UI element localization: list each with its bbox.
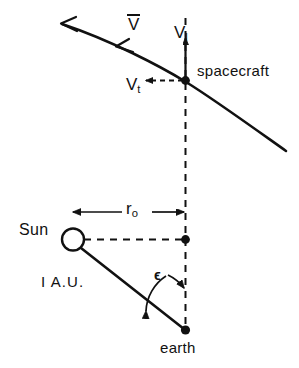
earth-point-marker <box>181 325 190 334</box>
trajectory-tip-arrowhead <box>61 17 77 31</box>
trajectory-curve <box>62 24 286 151</box>
astronomical-unit-label: I A.U. <box>41 274 84 289</box>
radial-distance-base: r <box>126 199 132 218</box>
diagram-figure: V Vl Vt spacecraft ro Sun I A.U. ϵ earth <box>0 0 299 368</box>
sun-label: Sun <box>19 222 48 238</box>
longitudinal-velocity-label: Vl <box>174 24 188 41</box>
radial-distance-label: ro <box>126 200 138 217</box>
longitudinal-velocity-base: V <box>174 23 185 42</box>
v-bar-arrowhead <box>116 39 133 52</box>
radial-distance-subscript: o <box>132 207 138 219</box>
one-au-line <box>81 248 184 329</box>
transverse-velocity-base: V <box>126 75 137 94</box>
transverse-velocity-label: Vt <box>126 76 140 93</box>
longitudinal-velocity-subscript: l <box>185 31 188 43</box>
velocity-vector-label: V <box>128 14 139 33</box>
junction-point-marker <box>181 235 190 244</box>
diagram-canvas <box>0 0 299 368</box>
elongation-angle-label: ϵ <box>154 268 161 282</box>
spacecraft-label: spacecraft <box>197 63 269 78</box>
velocity-vector-overbar-text: V <box>128 14 139 33</box>
spacecraft-point-marker <box>181 76 190 85</box>
earth-label: earth <box>160 340 196 355</box>
epsilon-arc-upper <box>168 275 184 288</box>
